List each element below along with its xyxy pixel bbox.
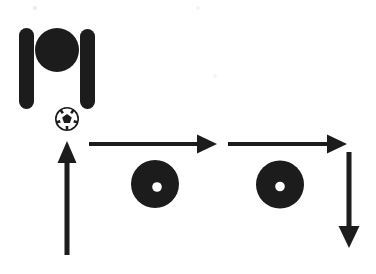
wheel-disc-left-hub (152, 182, 162, 192)
down-arrow (339, 152, 360, 248)
wheel-disc-right (256, 161, 304, 209)
robot-right-wheel-bar (80, 29, 95, 109)
up-arrow-head (58, 141, 77, 163)
down-arrow-head (339, 226, 360, 248)
wheel-disc-left (131, 160, 179, 208)
noise-speck (213, 74, 217, 78)
robot-path-diagram (0, 0, 376, 274)
noise-speck (33, 6, 37, 10)
up-arrow (58, 141, 77, 255)
noise-speck (196, 6, 200, 10)
robot-top-view (19, 28, 95, 109)
robot-left-wheel-bar (19, 28, 34, 109)
soccer-ball-icon (56, 108, 78, 130)
right-arrow-first (89, 135, 217, 154)
robot-body-circle (35, 28, 79, 72)
right-arrow-first-head (197, 135, 217, 154)
diagram-page (0, 0, 376, 274)
right-arrow-second (228, 135, 347, 154)
wheel-disc-right-hub (275, 182, 285, 192)
right-arrow-second-head (327, 135, 347, 154)
